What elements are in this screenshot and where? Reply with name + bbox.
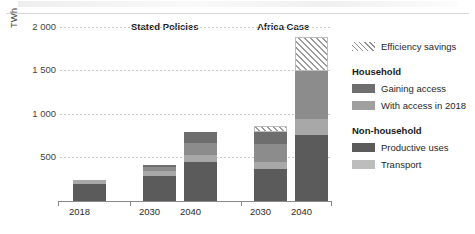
segment-gaining-access xyxy=(143,165,176,167)
segment-with-access-in-2018 xyxy=(254,144,287,162)
legend-label: Transport xyxy=(381,156,421,173)
x-label-2030-sps: 2030 xyxy=(128,206,171,217)
segment-productive-uses xyxy=(184,162,217,201)
segment-gaining-access xyxy=(254,132,287,144)
productive-uses-swatch-icon xyxy=(352,143,375,152)
segment-productive-uses xyxy=(73,184,106,201)
x-label-2018: 2018 xyxy=(58,206,101,217)
legend-header-household: Household xyxy=(352,63,472,80)
bar-africa-case-2040[interactable] xyxy=(295,37,328,201)
gridline-1500 xyxy=(60,70,330,71)
clipped-title-artifact xyxy=(18,1,458,7)
segment-transport xyxy=(295,119,328,135)
segment-transport xyxy=(143,171,176,176)
legend-label: Productive uses xyxy=(381,139,449,156)
chart-container: TWh 2 000 1 500 1 000 500 Stated Policie… xyxy=(0,0,475,234)
y-tick-label-500: 500 xyxy=(18,152,56,162)
bar-africa-case-2030[interactable] xyxy=(254,126,287,201)
header-divider xyxy=(6,13,469,14)
segment-with-access-in-2018 xyxy=(295,71,328,119)
plot-area xyxy=(60,18,330,201)
legend-item-gaining-access[interactable]: Gaining access xyxy=(352,80,472,97)
legend-header-non-household: Non-household xyxy=(352,122,472,139)
y-tick-label-1000: 1 000 xyxy=(18,109,56,119)
y-tick-label-2000: 2 000 xyxy=(18,22,56,32)
gridline-1000 xyxy=(60,114,330,115)
x-axis-tick-end xyxy=(331,201,332,206)
transport-swatch-icon xyxy=(352,160,375,169)
segment-transport xyxy=(73,180,106,184)
efficiency-savings-swatch-icon xyxy=(352,42,375,51)
legend-label: With access in 2018 xyxy=(381,97,466,114)
legend-spacer xyxy=(352,55,472,63)
chart-legend: Efficiency savings Household Gaining acc… xyxy=(352,38,472,173)
segment-transport xyxy=(254,162,287,169)
legend-item-with-access-in-2018[interactable]: With access in 2018 xyxy=(352,97,472,114)
segment-productive-uses xyxy=(295,135,328,201)
legend-label: Efficiency savings xyxy=(381,38,456,55)
segment-productive-uses xyxy=(143,176,176,201)
x-axis-line xyxy=(58,201,332,202)
legend-item-efficiency-savings[interactable]: Efficiency savings xyxy=(352,38,472,55)
y-tick-label-1500: 1 500 xyxy=(18,65,56,75)
segment-efficiency-savings xyxy=(254,126,287,132)
segment-efficiency-savings xyxy=(295,37,328,71)
segment-gaining-access xyxy=(184,132,217,143)
legend-item-transport[interactable]: Transport xyxy=(352,156,472,173)
legend-spacer xyxy=(352,114,472,122)
gridline-2000 xyxy=(60,27,330,28)
legend-item-productive-uses[interactable]: Productive uses xyxy=(352,139,472,156)
bar-stated-policies-2040[interactable] xyxy=(184,132,217,201)
legend-label: Gaining access xyxy=(381,80,446,97)
bar-stated-policies-2030[interactable] xyxy=(143,165,176,201)
segment-with-access-in-2018 xyxy=(184,143,217,155)
gaining-access-swatch-icon xyxy=(352,84,375,93)
x-label-2040-sps: 2040 xyxy=(169,206,212,217)
with-access-swatch-icon xyxy=(352,101,375,110)
x-label-2030-ac: 2030 xyxy=(239,206,282,217)
x-label-2040-ac: 2040 xyxy=(280,206,323,217)
segment-with-access-in-2018 xyxy=(143,167,176,171)
segment-productive-uses xyxy=(254,169,287,201)
bar-stated-policies-2018[interactable] xyxy=(73,180,106,201)
segment-transport xyxy=(184,155,217,162)
